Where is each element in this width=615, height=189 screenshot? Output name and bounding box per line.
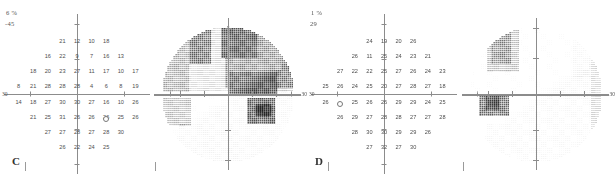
- axis-tick: [431, 92, 432, 97]
- axis-tick: [291, 92, 292, 97]
- panel-d: 1 % 29 30 241920262611252423212722222527…: [303, 0, 614, 189]
- blind-spot-marker: [337, 101, 343, 107]
- threshold-value: 27: [88, 129, 94, 135]
- threshold-value: 28: [395, 114, 401, 120]
- threshold-value: 26: [88, 114, 94, 120]
- threshold-value: 27: [425, 114, 431, 120]
- threshold-value: 28: [103, 129, 109, 135]
- tick-mark-d1: [328, 162, 329, 171]
- threshold-value: 19: [381, 38, 387, 44]
- horizontal-axis: [462, 94, 609, 96]
- threshold-value: 27: [337, 68, 343, 74]
- threshold-value: 29: [410, 99, 416, 105]
- threshold-value: 16: [45, 53, 51, 59]
- threshold-value: 27: [366, 114, 372, 120]
- threshold-value: 28: [439, 114, 445, 120]
- threshold-value: 27: [395, 83, 401, 89]
- threshold-value: 10: [88, 38, 94, 44]
- threshold-value: 26: [425, 129, 431, 135]
- threshold-value: 26: [381, 99, 387, 105]
- threshold-value: 30: [59, 99, 65, 105]
- axis-tick: [382, 24, 387, 25]
- threshold-value: 24: [88, 144, 94, 150]
- axis-tick: [533, 160, 539, 161]
- threshold-value: 22: [59, 53, 65, 59]
- threshold-value: 26: [410, 68, 416, 74]
- axis-tick: [560, 91, 561, 97]
- threshold-value: 24: [425, 99, 431, 105]
- threshold-value: 28: [381, 114, 387, 120]
- threshold-value: 24: [395, 53, 401, 59]
- threshold-value: 27: [395, 68, 401, 74]
- threshold-value: 12: [74, 38, 80, 44]
- threshold-value: 18: [439, 83, 445, 89]
- axis-tick: [488, 91, 489, 97]
- threshold-value: 27: [59, 129, 65, 135]
- axis-end-label-left: 30: [2, 91, 8, 97]
- threshold-value: 27: [410, 114, 416, 120]
- threshold-value: 25: [439, 99, 445, 105]
- axis-tick: [276, 91, 277, 97]
- axis-tick: [204, 91, 205, 97]
- threshold-value: 28: [59, 83, 65, 89]
- threshold-value: 27: [88, 99, 94, 105]
- horizontal-axis: [311, 94, 457, 95]
- threshold-value: 25: [381, 68, 387, 74]
- panel-d-label: D: [315, 155, 323, 167]
- axis-tick: [252, 91, 253, 97]
- horizontal-axis: [4, 94, 150, 95]
- threshold-value: 8: [17, 83, 20, 89]
- threshold-value: 24: [425, 68, 431, 74]
- axis-tick: [124, 92, 125, 97]
- threshold-value: 30: [74, 99, 80, 105]
- threshold-value: 26: [352, 53, 358, 59]
- tick-mark-d2: [463, 162, 464, 171]
- threshold-value: 21: [30, 114, 36, 120]
- panel-c-numeric-grid: 30 2112101816229716131820232711171017821…: [2, 14, 152, 174]
- panel-c: 6 % -45 30 21121018162297161318202327111…: [0, 0, 307, 189]
- threshold-value: 25: [322, 83, 328, 89]
- threshold-value: 19: [132, 83, 138, 89]
- axis-tick: [382, 129, 387, 130]
- threshold-value: 16: [103, 99, 109, 105]
- threshold-value: 11: [366, 53, 372, 59]
- panel-d-numeric-grid: 30 2419202626112524232127222225272624232…: [309, 14, 459, 174]
- axis-tick: [512, 91, 513, 97]
- threshold-value: 28: [410, 83, 416, 89]
- threshold-value: 25: [103, 144, 109, 150]
- threshold-value: 26: [132, 114, 138, 120]
- threshold-value: 7: [90, 53, 93, 59]
- threshold-value: 27: [45, 129, 51, 135]
- axis-tick: [533, 58, 539, 59]
- threshold-value: 26: [322, 99, 328, 105]
- threshold-value: 29: [395, 129, 401, 135]
- threshold-value: 23: [59, 68, 65, 74]
- threshold-value: 23: [439, 68, 445, 74]
- axis-tick: [533, 28, 539, 29]
- threshold-value: 27: [45, 99, 51, 105]
- threshold-value: 20: [381, 83, 387, 89]
- threshold-value: 29: [352, 114, 358, 120]
- threshold-value: 26: [337, 114, 343, 120]
- threshold-value: 26: [132, 99, 138, 105]
- threshold-value: 31: [59, 114, 65, 120]
- threshold-value: 6: [105, 83, 108, 89]
- threshold-value: 17: [132, 68, 138, 74]
- axis-end-label-right: 30: [610, 91, 615, 97]
- axis-tick: [382, 164, 387, 165]
- axis-tick: [75, 24, 80, 25]
- axis-tick: [75, 129, 80, 130]
- threshold-value: 18: [103, 38, 109, 44]
- threshold-value: 26: [74, 114, 80, 120]
- threshold-value: 27: [425, 83, 431, 89]
- threshold-value: 24: [366, 38, 372, 44]
- threshold-value: 10: [118, 99, 124, 105]
- threshold-value: 13: [118, 53, 124, 59]
- panel-c-greyscale-plot: 30: [150, 14, 305, 174]
- threshold-value: 30: [410, 144, 416, 150]
- threshold-value: 25: [366, 83, 372, 89]
- threshold-value: 27: [366, 144, 372, 150]
- threshold-value: 26: [59, 144, 65, 150]
- threshold-value: 29: [395, 99, 401, 105]
